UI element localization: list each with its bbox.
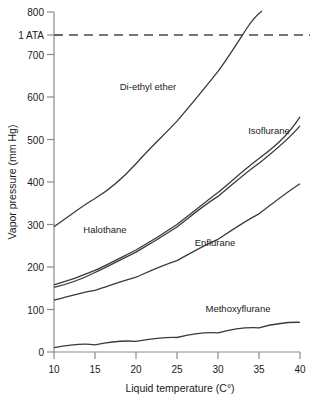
vapor-pressure-chart-figure: 800 1 ATA 700 600 500 400 300 200 100 0 …: [0, 0, 319, 402]
series-label-di-ethyl-ether: Di-ethyl ether: [120, 81, 177, 92]
x-tick-label: 35: [253, 364, 265, 375]
y-tick-label: 100: [27, 305, 44, 316]
y-tick-label: 0: [38, 347, 44, 358]
y-tick-label-ata: 1 ATA: [18, 30, 44, 41]
y-tick-label: 400: [27, 177, 44, 188]
series-curves: [54, 11, 300, 348]
series-label-halothane: Halothane: [83, 224, 126, 235]
x-tick-label: 15: [89, 364, 101, 375]
series-label-enflurane: Enflurane: [195, 237, 236, 248]
y-tick-label: 200: [27, 262, 44, 273]
x-tick-label: 30: [212, 364, 224, 375]
series-label-isoflurane: Isoflurane: [248, 125, 290, 136]
curve-di-ethyl-ether: [54, 11, 262, 227]
x-tick-label: 10: [48, 364, 60, 375]
y-axis-tick-labels: 800 1 ATA 700 600 500 400 300 200 100 0: [18, 7, 44, 358]
series-label-methoxyflurane: Methoxyflurane: [206, 303, 271, 314]
y-tick-label: 700: [27, 50, 44, 61]
x-axis-title: Liquid temperature (C°): [125, 382, 234, 394]
x-axis-tick-labels: 10 15 20 25 30 35 40: [48, 364, 306, 375]
x-tick-label: 40: [294, 364, 306, 375]
chart-canvas: 800 1 ATA 700 600 500 400 300 200 100 0 …: [0, 0, 319, 402]
y-tick-label: 800: [27, 7, 44, 18]
y-axis-title: Vapor pressure (mm Hg): [6, 125, 18, 240]
x-axis-ticks: [54, 352, 300, 359]
x-tick-label: 25: [171, 364, 183, 375]
x-tick-label: 20: [130, 364, 142, 375]
y-tick-label: 500: [27, 135, 44, 146]
y-tick-label: 300: [27, 220, 44, 231]
series-labels: Di-ethyl ether Isoflurane Halothane Enfl…: [83, 81, 290, 314]
curve-methoxyflurane: [54, 322, 300, 347]
y-tick-label: 600: [27, 92, 44, 103]
curve-halothane: [54, 126, 300, 288]
axes-group: [47, 12, 300, 352]
